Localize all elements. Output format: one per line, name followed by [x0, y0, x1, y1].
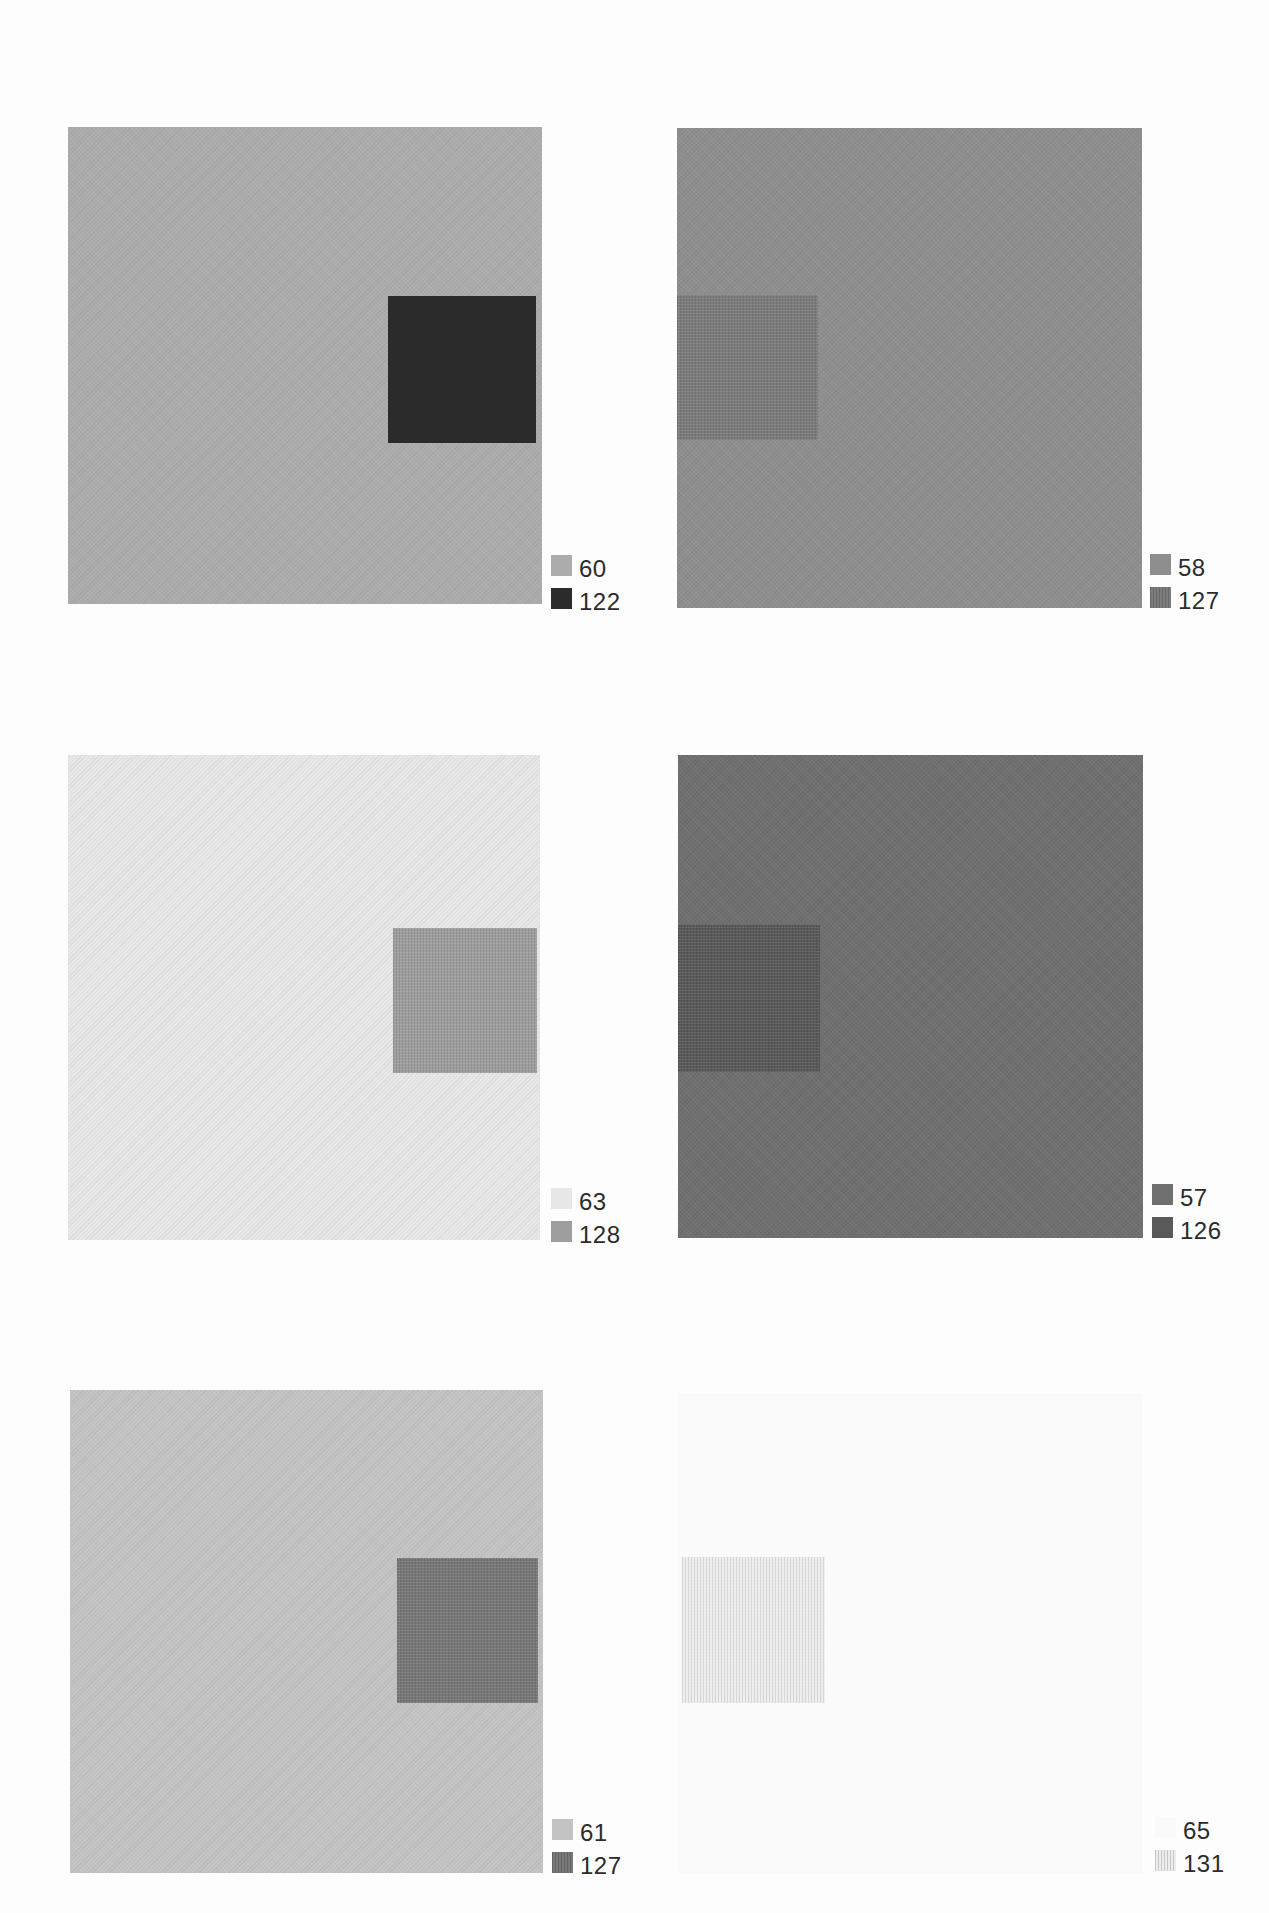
surround-swatch	[551, 555, 572, 576]
legend-row: 61	[552, 1819, 622, 1840]
center-swatch	[552, 1852, 573, 1873]
panel-1-legend: 60 122	[551, 555, 621, 609]
center-swatch	[1155, 1850, 1176, 1871]
surround-value: 57	[1180, 1187, 1208, 1208]
legend-row: 126	[1152, 1217, 1222, 1238]
surround-swatch	[552, 1819, 573, 1840]
scanned-figure-page: { "page": { "background_color": "#fdfdfd…	[0, 0, 1269, 1913]
surround-value: 65	[1183, 1820, 1211, 1841]
surround-value: 63	[579, 1191, 607, 1212]
panel-2-legend: 58 127	[1150, 554, 1220, 608]
panel-2-surround-field	[677, 128, 1142, 608]
center-value: 127	[1178, 590, 1220, 611]
panel-1-center-square	[388, 296, 536, 443]
surround-swatch	[1152, 1184, 1173, 1205]
center-value: 127	[580, 1855, 622, 1876]
legend-row: 127	[552, 1852, 622, 1873]
center-swatch	[1152, 1217, 1173, 1238]
panel-2-center-square	[677, 295, 818, 440]
panel-6-surround-field	[678, 1393, 1143, 1873]
legend-row: 128	[551, 1221, 621, 1242]
panel-4-legend: 57 126	[1152, 1184, 1222, 1238]
panel-6-center-square	[682, 1557, 825, 1703]
panel-3-center-square	[393, 928, 537, 1073]
legend-row: 57	[1152, 1184, 1222, 1205]
panel-6-legend: 65 131	[1155, 1817, 1225, 1871]
center-swatch	[551, 588, 572, 609]
center-value: 131	[1183, 1853, 1225, 1874]
center-swatch	[551, 1221, 572, 1242]
panel-3-legend: 63 128	[551, 1188, 621, 1242]
center-value: 128	[579, 1224, 621, 1245]
panel-5-surround-field	[70, 1390, 543, 1873]
surround-value: 60	[579, 558, 607, 579]
center-value: 122	[579, 591, 621, 612]
panel-1-surround-field	[68, 127, 542, 604]
legend-row: 65	[1155, 1817, 1225, 1838]
panel-3-surround-field	[68, 755, 540, 1240]
legend-row: 60	[551, 555, 621, 576]
panel-5-center-square	[397, 1558, 538, 1703]
surround-swatch	[1150, 554, 1171, 575]
surround-value: 58	[1178, 557, 1206, 578]
panel-4-center-square	[678, 925, 820, 1072]
center-swatch	[1150, 587, 1171, 608]
legend-row: 63	[551, 1188, 621, 1209]
panel-5-legend: 61 127	[552, 1819, 622, 1873]
legend-row: 122	[551, 588, 621, 609]
surround-value: 61	[580, 1822, 608, 1843]
legend-row: 127	[1150, 587, 1220, 608]
surround-swatch	[551, 1188, 572, 1209]
center-value: 126	[1180, 1220, 1222, 1241]
panel-4-surround-field	[678, 755, 1143, 1238]
surround-swatch	[1155, 1817, 1176, 1838]
legend-row: 131	[1155, 1850, 1225, 1871]
legend-row: 58	[1150, 554, 1220, 575]
